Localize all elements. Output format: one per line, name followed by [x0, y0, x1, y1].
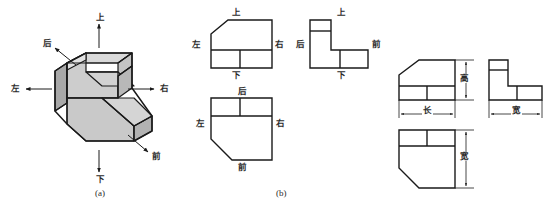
- label-b-top-bottom: 前: [238, 163, 247, 172]
- dim-label-length: 长: [422, 106, 433, 115]
- label-b-front-bottom: 下: [232, 71, 241, 80]
- label-a-front: 前: [152, 152, 161, 161]
- isometric-solid: [55, 53, 152, 141]
- label-a-down: 下: [96, 175, 105, 184]
- caption-a: (a): [95, 189, 105, 198]
- c-side-view: [489, 60, 542, 100]
- label-b-top-right: 右: [276, 119, 285, 128]
- caption-b: (b): [276, 189, 287, 198]
- b-front-outline: [211, 20, 272, 68]
- b-side-outline: [310, 20, 368, 68]
- figure-vector-layer: [0, 0, 551, 207]
- c-front-view: [399, 60, 455, 100]
- label-a-back: 后: [43, 39, 52, 48]
- c-top-view: [399, 130, 455, 188]
- b-front-view: [211, 20, 272, 68]
- b-top-view: [211, 98, 272, 160]
- label-b-front-right: 右: [275, 40, 284, 49]
- dim-label-width-horizontal: 宽: [511, 106, 522, 115]
- label-a-up: 上: [96, 13, 105, 22]
- b-side-view: [310, 20, 368, 68]
- label-a-left: 左: [11, 84, 20, 93]
- label-b-top-left: 左: [196, 119, 205, 128]
- label-b-side-left: 后: [296, 40, 305, 49]
- arrow-back: [55, 48, 76, 65]
- c-side-outline: [489, 60, 542, 100]
- label-a-right: 右: [160, 84, 169, 93]
- label-b-front-left: 左: [192, 40, 201, 49]
- label-b-side-right: 前: [372, 40, 381, 49]
- label-b-side-bottom: 下: [337, 71, 346, 80]
- dim-label-height: 高: [459, 74, 470, 83]
- figure-canvas: 上 后 左 右 前 下 (a) 上 左 右 下 上 后 前 下 后 左 右 前 …: [0, 0, 551, 207]
- label-b-side-top: 上: [337, 8, 346, 17]
- label-b-top-top: 后: [238, 87, 247, 96]
- label-b-front-top: 上: [232, 8, 241, 17]
- b-top-outline: [211, 98, 272, 160]
- dim-label-width-vertical: 宽: [459, 152, 470, 161]
- c-dimension-lines: [399, 60, 542, 188]
